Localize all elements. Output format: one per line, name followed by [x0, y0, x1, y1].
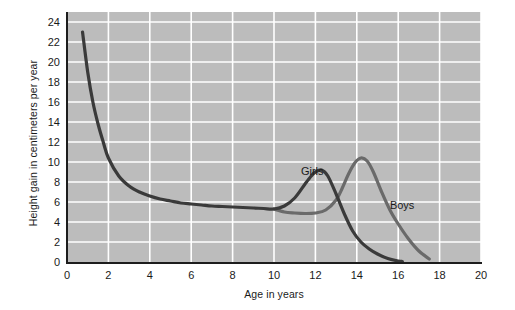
x-tick-label: 0	[52, 270, 82, 281]
x-tick-label: 14	[342, 270, 372, 281]
gridlines	[67, 12, 481, 262]
plot-area	[67, 12, 481, 262]
x-tick-label: 8	[218, 270, 248, 281]
x-tick-label: 18	[425, 270, 455, 281]
series-label-girls: Girls	[301, 166, 324, 177]
x-axis-tick-labels: 02468101214161820	[0, 270, 515, 286]
x-tick-label: 2	[93, 270, 123, 281]
x-tick-label: 4	[135, 270, 165, 281]
x-tick-label: 10	[259, 270, 289, 281]
x-axis-line	[66, 262, 482, 264]
x-tick-label: 16	[383, 270, 413, 281]
x-tick-label: 12	[300, 270, 330, 281]
x-tick-label: 20	[466, 270, 496, 281]
series-paths	[83, 32, 430, 262]
y-axis-title: Height gain in centimeters per year	[27, 18, 39, 268]
plot-svg	[67, 12, 481, 262]
series-line-girls	[83, 32, 403, 262]
x-tick-label: 6	[176, 270, 206, 281]
y-axis-line	[66, 12, 68, 264]
series-label-boys: Boys	[390, 200, 414, 211]
growth-velocity-chart: 024681012141618202224 02468101214161820 …	[0, 0, 515, 310]
x-axis-title: Age in years	[67, 288, 481, 300]
